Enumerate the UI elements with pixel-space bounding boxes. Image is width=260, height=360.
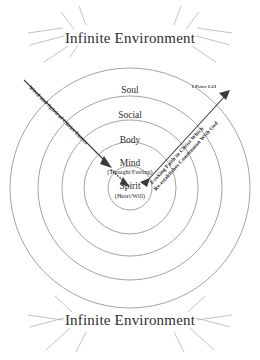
top-ray-1 [28,28,63,33]
scripture-reference: 1 Peter 1:21 [192,84,217,89]
inbound-arrow-label: Word and Spirit of Christ Enters [28,84,90,146]
outbound-arrow-group: Evoking Faith in Christ Which Re-establi… [140,90,234,192]
top-ray-2 [30,36,64,45]
bottom-ray-8 [188,296,205,312]
top-ray-11 [70,45,78,57]
infinite-environment-title-top: Infinite Environment [65,30,196,46]
diagram-canvas: Infinite Environment Soul Social Body Mi… [0,0,260,360]
ring-label-body: Body [120,135,141,145]
outbound-arrow-label-line1: Evoking Faith in Christ Which [149,125,205,185]
bottom-ray-10 [174,332,184,352]
bottom-ray-4 [46,328,70,350]
infinite-environment-diagram: Infinite Environment Soul Social Body Mi… [0,0,260,360]
ring-label-social: Social [118,110,142,120]
inbound-arrow-label-textpath: Word and Spirit of Christ Enters [28,84,90,146]
ring-label-soul: Soul [121,85,139,95]
bottom-ray-7 [196,318,230,327]
top-ray-7 [196,36,230,45]
top-ray-3 [61,12,74,29]
bottom-ray-5 [76,332,86,352]
top-ray-5 [79,6,86,25]
outbound-arrow-head [219,90,230,100]
top-ray-4 [44,46,68,62]
top-ray-8 [186,12,199,29]
bottom-ray-2 [30,318,64,327]
outbound-arrow-label-line1-textpath: Evoking Faith in Christ Which [149,125,205,185]
top-ray-10 [174,6,181,25]
ring-sublabel-spirit: (Heart/Will) [115,192,145,200]
infinite-environment-title-bottom: Infinite Environment [65,312,196,328]
bottom-ray-9 [190,328,214,350]
ring-label-mind: Mind [120,158,141,168]
outbound-arrow-shaft [148,95,226,180]
bottom-ray-3 [55,296,72,312]
top-ray-6 [197,28,232,33]
top-ray-9 [192,46,216,62]
